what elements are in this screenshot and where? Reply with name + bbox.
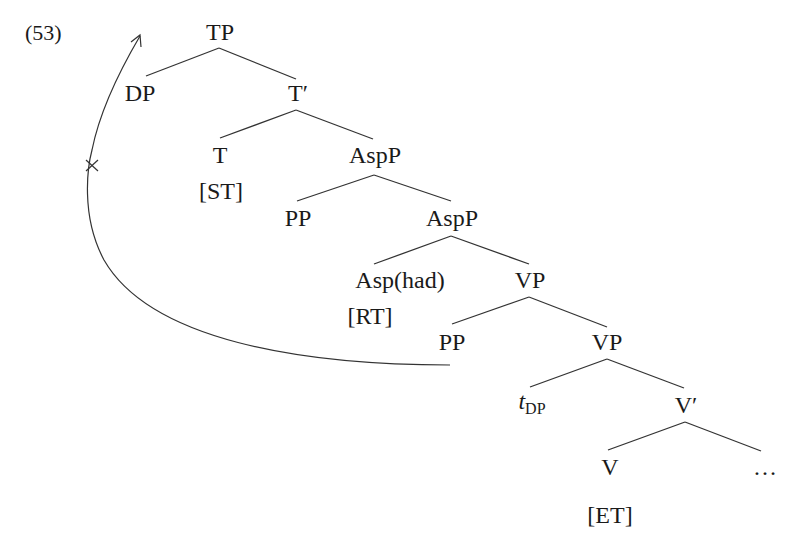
branch-aspp-aspp [374,175,451,201]
branch-vp-vbar [607,359,684,388]
asp-label: Asp [355,267,394,293]
branch-aspp-pp [297,175,374,201]
trace-subscript: DP [525,400,545,417]
feature-rt: [RT] [347,304,392,328]
feature-et: [ET] [587,503,632,527]
branch-aspp-vp [451,236,529,264]
branch-aspp-asp [374,236,451,264]
node-ellipsis: … [753,455,777,479]
branch-tp-dp [146,48,219,76]
node-v: V [601,455,618,479]
node-tp: TP [206,20,234,44]
node-t: T [213,143,228,167]
node-pp-lower: PP [439,330,466,354]
node-vp-lower: VP [592,330,623,354]
node-dp: DP [125,81,156,105]
branch-vp-vp [529,297,607,327]
branch-vbar-ellipsis [685,422,761,451]
node-v-bar: V′ [675,393,698,417]
node-asp: Asp(had) [355,268,444,292]
branch-tp-tbar [219,48,296,79]
branch-vp-pp [452,297,529,324]
feature-st: [ST] [199,179,243,203]
branch-vbar-v [608,422,685,450]
node-vp-upper: VP [515,268,546,292]
branch-tbar-t [220,110,296,138]
branch-vp-trace [530,359,607,387]
node-aspp-lower: AspP [426,206,478,230]
branch-tbar-aspp [296,110,373,139]
trace-label: t [518,388,525,414]
asp-lexical: (had) [394,267,445,293]
node-aspp-upper: AspP [349,143,401,167]
node-t-bar: T′ [288,81,308,105]
node-trace: tDP [518,389,545,421]
node-pp-upper: PP [285,206,312,230]
